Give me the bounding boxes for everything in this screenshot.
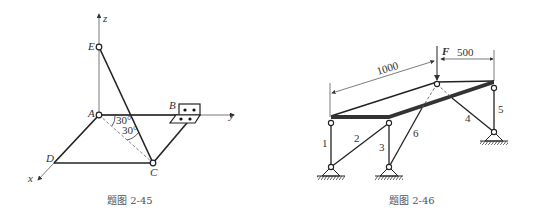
joint-5-top (491, 85, 496, 90)
point-label-C: C (150, 166, 158, 178)
bar-AD (54, 115, 99, 163)
member-4 (452, 98, 494, 132)
plate-back-edge (437, 81, 494, 82)
member-label-4: 4 (465, 112, 471, 124)
x-axis-label: x (27, 172, 33, 184)
caption-2-45: 题图 2-45 (107, 195, 153, 206)
joint-E (96, 44, 102, 50)
point-label-D: D (45, 152, 54, 164)
bar-CB (153, 117, 192, 163)
joint-1-top (328, 120, 333, 125)
angle-label-2: 30° (122, 124, 137, 136)
joint-3-top (386, 120, 391, 125)
point-label-E: E (87, 40, 95, 52)
z-axis-label: z (102, 12, 108, 24)
member-label-1: 1 (322, 137, 328, 149)
rope-EC (99, 47, 153, 163)
figure-2-45: z y x 30° 30° E A B C D (27, 12, 234, 206)
member-label-2: 2 (354, 132, 360, 144)
point-label-B: B (169, 99, 176, 111)
joint-apex (434, 81, 439, 86)
point-label-A: A (87, 107, 95, 119)
pin-support-5 (480, 129, 508, 145)
y-axis-label: y (228, 109, 234, 121)
joint-A (96, 112, 102, 118)
joint-C (150, 160, 156, 166)
member-label-3: 3 (379, 141, 385, 153)
wall-bracket (179, 104, 200, 115)
plate-front-beam (331, 115, 389, 119)
force-label: F (441, 45, 450, 57)
member-label-6: 6 (413, 127, 419, 139)
pin-support-1 (317, 164, 345, 180)
dim-label-500: 500 (457, 46, 474, 58)
pin-support-3 (375, 164, 403, 180)
figure-2-46: 1000 500 F 1 2 3 4 5 6 (317, 45, 508, 206)
caption-2-46: 题图 2-46 (389, 195, 435, 206)
member-label-5: 5 (498, 103, 504, 115)
dim-label-1000: 1000 (375, 59, 400, 77)
plate-right-beam (389, 80, 494, 119)
diagram-canvas: z y x 30° 30° E A B C D (0, 0, 534, 218)
bracket-base (170, 115, 200, 123)
angle-arc-1 (112, 115, 115, 126)
